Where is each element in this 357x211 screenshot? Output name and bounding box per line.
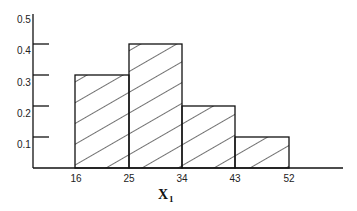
x-tick-label: 16 (70, 173, 82, 184)
bars (75, 44, 289, 168)
x-axis-title-subscript: 1 (169, 194, 174, 204)
y-tick-label: 0.3 (17, 77, 31, 88)
x-tick-label: 43 (229, 173, 241, 184)
x-tick-label: 25 (123, 173, 135, 184)
y-tick-label: 0.4 (17, 45, 31, 56)
histogram-chart: 0.1 0.2 0.3 0.4 0.5 16 25 34 43 52 X 1 (0, 0, 357, 211)
bar-25-34 (129, 44, 182, 168)
y-tick-label: 0.2 (17, 108, 31, 119)
x-tick-label: 52 (283, 173, 295, 184)
y-tick-label: 0.1 (17, 139, 31, 150)
bar-43-52 (235, 137, 289, 168)
bar-16-25 (75, 75, 129, 168)
y-tick-label: 0.5 (17, 14, 31, 25)
bar-34-43 (182, 106, 235, 168)
x-tick-label: 34 (176, 173, 188, 184)
x-axis-title: X (158, 187, 168, 202)
y-ticks (33, 44, 49, 137)
